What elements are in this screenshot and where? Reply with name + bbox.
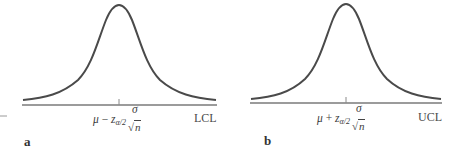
panel-a-plot [22,5,217,105]
plus-operator: + [323,112,335,124]
sigma-over-root-n: σ √n [128,108,142,131]
sigma-over-root-n: σ √n [352,107,366,130]
panel-b-bell-curve [251,4,441,99]
minus-operator: − [99,113,111,125]
sigma-symbol: σ [354,103,364,115]
panel-b-label: b [264,133,271,149]
z-subscript: α/2 [116,118,126,127]
sigma-symbol: σ [130,104,140,116]
panel-a-bell-curve [23,5,216,100]
panel-a-limit-label: LCL [194,111,217,126]
root-n: √n [352,121,366,132]
panel-b-ucl-formula: μ + z α/2 σ √n [317,107,365,130]
z-subscript: α/2 [340,117,350,126]
figure-canvas [0,0,462,154]
panel-a-label: a [24,134,31,150]
root-n: √n [128,122,142,133]
panel-b-plot [250,4,442,103]
panel-b-limit-label: UCL [418,110,442,125]
panel-a-lcl-formula: μ − z α/2 σ √n [93,108,141,131]
